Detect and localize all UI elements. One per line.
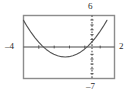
axis-label-xmax: 2	[119, 42, 124, 51]
graphing-calculator-viewport	[0, 0, 138, 95]
axis-label-ymax: 6	[88, 2, 93, 11]
axis-label-ymin: –7	[86, 82, 95, 91]
axis-label-xmin: –4	[5, 42, 14, 51]
